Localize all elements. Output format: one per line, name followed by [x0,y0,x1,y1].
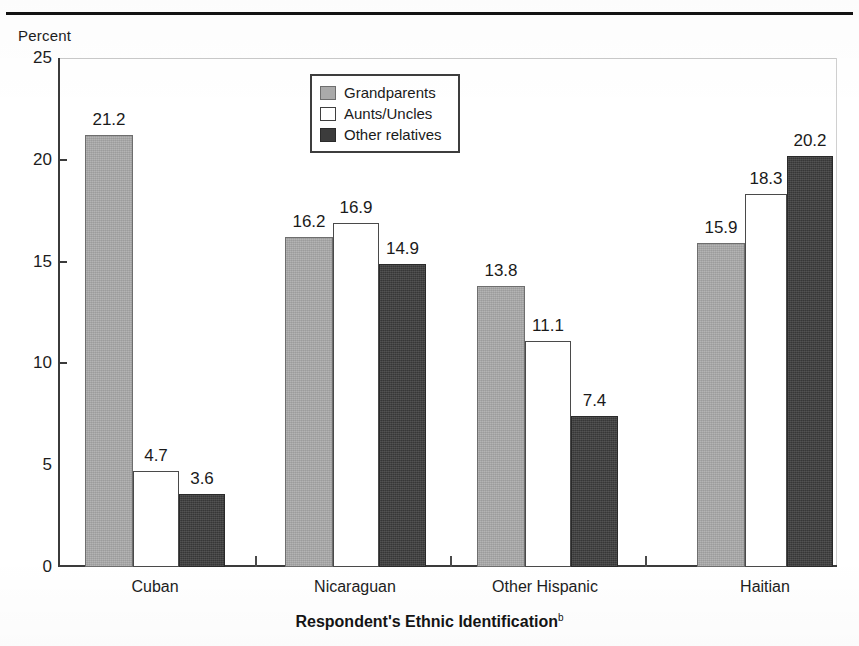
legend-item: Aunts/Uncles [320,103,450,124]
bar-value-label: 20.2 [793,131,826,151]
bar-value-label: 4.7 [144,446,168,466]
x-axis-tick-mark [645,556,647,567]
bar-value-label: 13.8 [484,261,517,281]
y-axis-tick-label: 15 [8,252,52,272]
bar-aunts-uncles-cuban [133,471,179,567]
legend-item: Other relatives [320,124,450,145]
y-axis-tick-label: 10 [8,353,52,373]
x-axis-category-label: Other Hispanic [492,578,598,596]
bar-aunts-uncles-haitian [745,194,787,567]
bar-aunts-uncles-nicaraguan [333,223,379,567]
chart-legend: Grandparents Aunts/Uncles Other relative… [310,74,460,153]
bar-other-relatives-haitian [787,156,833,567]
bar-grandparents-other-hispanic [477,286,525,567]
other-relatives-swatch-icon [320,128,336,142]
y-axis-tick-mark [58,159,67,161]
x-axis-category-label: Cuban [131,578,178,596]
y-axis-tick-label: 25 [8,48,52,68]
legend-item-label: Grandparents [344,84,436,101]
x-axis-tick-mark [255,556,257,567]
legend-item: Grandparents [320,82,450,103]
y-axis-tick-mark [58,261,67,263]
bar-value-label: 18.3 [749,169,782,189]
legend-item-label: Other relatives [344,126,442,143]
bar-value-label: 16.9 [339,198,372,218]
y-axis-tick-group: 0510152025 [0,0,52,646]
bar-other-relatives-nicaraguan [379,264,426,567]
bar-value-label: 14.9 [386,239,419,259]
bar-aunts-uncles-other-hispanic [525,341,571,567]
bar-other-relatives-cuban [179,494,225,567]
y-axis-tick-label: 0 [8,557,52,577]
grandparents-swatch-icon [320,86,336,100]
y-axis-tick-label: 20 [8,150,52,170]
aunts-uncles-swatch-icon [320,107,336,121]
x-axis-title: Respondent's Ethnic Identificationb [0,612,859,631]
bar-grandparents-nicaraguan [285,237,333,567]
x-axis-title-text: Respondent's Ethnic Identification [295,613,557,630]
bar-value-label: 15.9 [704,218,737,238]
bar-grandparents-haitian [697,243,745,567]
x-axis-title-footnote-marker: b [558,612,564,623]
bar-value-label: 16.2 [292,212,325,232]
bar-chart-figure: Percent 0510152025 21.24.73.616.216.914.… [0,0,859,646]
bar-value-label: 21.2 [92,110,125,130]
y-axis-tick-mark [58,362,67,364]
bar-value-label: 11.1 [532,316,564,336]
bar-grandparents-cuban [85,135,133,567]
y-axis-tick-label: 5 [8,455,52,475]
bar-value-label: 3.6 [190,469,214,489]
x-axis-category-label: Nicaraguan [314,578,396,596]
x-axis-tick-mark [450,556,452,567]
top-horizontal-rule [6,12,853,15]
bar-value-label: 7.4 [583,391,607,411]
x-axis-category-label: Haitian [740,578,790,596]
bar-other-relatives-other-hispanic [571,416,618,567]
legend-item-label: Aunts/Uncles [344,105,432,122]
